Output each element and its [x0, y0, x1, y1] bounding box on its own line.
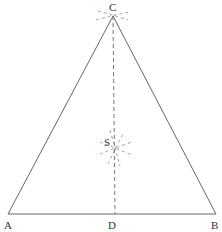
- label-b: B: [211, 219, 218, 231]
- label-s: S: [104, 136, 110, 148]
- side-bc: [113, 16, 216, 214]
- label-c: C: [109, 1, 116, 13]
- label-a: A: [4, 219, 12, 231]
- label-d: D: [108, 219, 116, 231]
- triangle-diagram: C S A D B: [0, 0, 222, 232]
- segment-cd-dashed: [113, 16, 115, 214]
- side-ac: [8, 16, 113, 214]
